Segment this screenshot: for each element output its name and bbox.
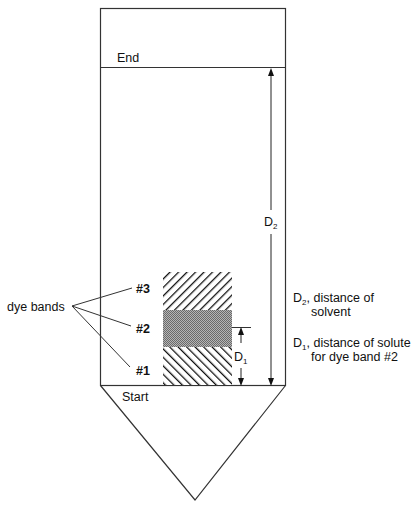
band-1-label: #1 bbox=[136, 364, 150, 378]
dye-band-3 bbox=[163, 272, 232, 310]
paper-strip bbox=[101, 9, 286, 501]
legend-d1-line2: for dye band #2 bbox=[311, 350, 398, 364]
chromatography-diagram: End Start #3 #2 #1 dye bands D1 D2 D2, d… bbox=[0, 0, 413, 516]
dye-band-1 bbox=[163, 347, 232, 385]
start-label: Start bbox=[122, 390, 149, 404]
d1-label: D1 bbox=[234, 350, 248, 366]
dye-band-2 bbox=[163, 310, 232, 347]
legend: D2, distance of solvent D1, distance of … bbox=[293, 291, 411, 364]
dye-bands-pointer-lines bbox=[72, 288, 132, 367]
band-2-label: #2 bbox=[136, 322, 150, 336]
end-label: End bbox=[117, 51, 139, 65]
band-3-label: #3 bbox=[136, 282, 150, 296]
dye-bands-label: dye bands bbox=[7, 300, 65, 314]
legend-d2-line2: solvent bbox=[311, 305, 351, 319]
d2-label: D2 bbox=[264, 215, 278, 231]
